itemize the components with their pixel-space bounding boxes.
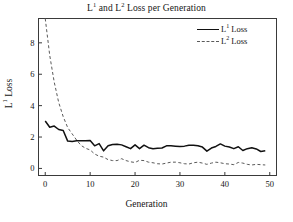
- x-tick-label: 10: [80, 179, 100, 189]
- y-axis-title-pre: L: [4, 102, 14, 108]
- y-tick-label: 0: [19, 163, 35, 173]
- legend-label-l2-post: Loss: [229, 36, 247, 46]
- y-axis-title-post: Loss: [4, 79, 14, 99]
- x-axis-title: Generation: [0, 198, 293, 210]
- y-tick-label: 8: [19, 38, 35, 48]
- legend-label-l1-post: Loss: [229, 24, 247, 34]
- y-axis-title-sup: 1: [1, 99, 8, 102]
- chart-figure: L1 and L2 Loss per Generation 0102030405…: [0, 0, 293, 222]
- x-tick-label: 30: [170, 179, 190, 189]
- legend-line-solid-icon: [196, 24, 220, 34]
- y-axis-title: L1 Loss: [4, 64, 15, 124]
- x-tick-label: 20: [125, 179, 145, 189]
- x-tick-label: 50: [260, 179, 280, 189]
- legend-line-dashed-icon: [196, 36, 220, 46]
- x-tick-label: 40: [215, 179, 235, 189]
- legend-label-l2-loss: L2 Loss: [220, 36, 247, 46]
- legend-item-l1-loss: L1 Loss: [196, 23, 276, 35]
- y-tick-label: 2: [19, 132, 35, 142]
- y-tick-label: 4: [19, 101, 35, 111]
- x-tick-label: 0: [35, 179, 55, 189]
- chart-legend: L1 Loss L2 Loss: [196, 23, 276, 47]
- legend-label-l1-loss: L1 Loss: [220, 24, 247, 34]
- legend-item-l2-loss: L2 Loss: [196, 35, 276, 47]
- y-tick-label: 6: [19, 69, 35, 79]
